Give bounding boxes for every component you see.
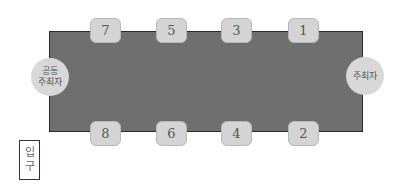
seat-number: 2 xyxy=(299,126,307,141)
seat-4[interactable]: 4 xyxy=(221,121,252,146)
co-host-label-line1: 공동 xyxy=(42,66,58,77)
entrance-label-line2: 구 xyxy=(25,160,35,174)
seat-number: 7 xyxy=(101,23,109,38)
seat-number: 3 xyxy=(232,23,240,38)
host-label: 주최자 xyxy=(353,71,377,82)
entrance-label-line1: 입 xyxy=(25,146,35,160)
seat-number: 4 xyxy=(232,126,240,141)
entrance-box: 입 구 xyxy=(19,140,40,180)
seat-1[interactable]: 1 xyxy=(288,18,319,43)
seat-6[interactable]: 6 xyxy=(156,121,187,146)
seat-2[interactable]: 2 xyxy=(288,121,319,146)
seat-8[interactable]: 8 xyxy=(90,121,121,146)
seat-number: 5 xyxy=(167,23,175,38)
co-host-seat[interactable]: 공동 주최자 xyxy=(31,58,69,96)
seat-number: 1 xyxy=(299,23,307,38)
co-host-label-line2: 주최자 xyxy=(38,77,62,88)
conference-table xyxy=(49,31,363,132)
seat-number: 6 xyxy=(167,126,175,141)
seat-5[interactable]: 5 xyxy=(156,18,187,43)
host-seat[interactable]: 주최자 xyxy=(346,57,384,95)
seat-7[interactable]: 7 xyxy=(90,18,121,43)
seat-number: 8 xyxy=(101,126,109,141)
seat-3[interactable]: 3 xyxy=(221,18,252,43)
